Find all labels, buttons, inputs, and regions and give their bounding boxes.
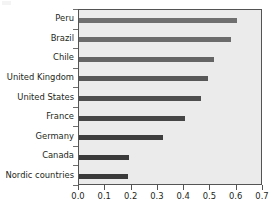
x-axis-tick-label: 0.5 [203, 191, 216, 201]
x-axis-tick [183, 185, 184, 190]
bar [79, 76, 208, 81]
x-axis-tick-label: 0.6 [229, 191, 242, 201]
x-axis-ticks [78, 185, 262, 190]
x-axis-tick [104, 185, 105, 190]
y-axis-label-peru: Peru [2, 14, 74, 23]
bar [79, 96, 201, 101]
y-axis-label-germany: Germany [2, 132, 74, 141]
bar [79, 174, 128, 179]
bar [79, 18, 237, 23]
plot-area [78, 9, 262, 185]
x-axis-tick [209, 185, 210, 190]
bar-chart: PeruBrazilChileUnited KingdomUnited Stat… [0, 0, 273, 209]
y-axis-label-nordic-countries: Nordic countries [2, 171, 74, 180]
x-axis-tick-label: 0.7 [255, 191, 268, 201]
bar [79, 57, 214, 62]
x-axis-tick-label: 0.0 [71, 191, 84, 201]
bar [79, 116, 185, 121]
x-axis-tick-label: 0.2 [124, 191, 137, 201]
x-axis-tick [236, 185, 237, 190]
bar [79, 37, 231, 42]
x-axis-tick-labels: 0.00.10.20.30.40.50.60.7 [78, 191, 262, 203]
y-axis-labels: PeruBrazilChileUnited KingdomUnited Stat… [0, 9, 74, 185]
x-axis-tick-label: 0.4 [176, 191, 189, 201]
x-axis-tick [157, 185, 158, 190]
y-axis-label-canada: Canada [2, 151, 74, 160]
x-axis-tick [78, 185, 79, 190]
y-axis-label-france: France [2, 112, 74, 121]
bar [79, 135, 163, 140]
bar [79, 155, 129, 160]
y-axis-label-brazil: Brazil [2, 34, 74, 43]
x-axis-tick [262, 185, 263, 190]
y-axis-label-chile: Chile [2, 53, 74, 62]
x-axis-tick-label: 0.1 [98, 191, 111, 201]
scan-artifact [2, 1, 11, 5]
y-axis-label-united-states: United States [2, 93, 74, 102]
x-axis-tick [131, 185, 132, 190]
x-axis-tick-label: 0.3 [150, 191, 163, 201]
y-axis-label-united-kingdom: United Kingdom [2, 73, 74, 82]
